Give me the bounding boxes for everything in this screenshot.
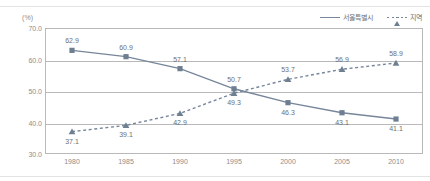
data-point-label: 56.9 — [335, 56, 349, 63]
legend-label-seoul: 서울특별시 — [343, 14, 373, 21]
x-axis-tick-label: 1985 — [118, 158, 134, 165]
triangle-marker-icon — [393, 60, 400, 66]
data-point-label: 42.9 — [173, 119, 187, 126]
legend-item-region[interactable]: 지역 — [387, 13, 422, 21]
x-axis-tick-label: 2005 — [334, 158, 350, 165]
data-point-label: 46.3 — [281, 109, 295, 116]
triangle-marker-icon — [394, 14, 400, 21]
x-axis-tick-label: 1990 — [172, 158, 188, 165]
page-rule-bottom — [0, 176, 430, 177]
legend-label-region: 지역 — [410, 14, 422, 21]
page-rule-top — [0, 6, 430, 7]
x-axis: 1980198519901995200020052010 — [45, 158, 423, 172]
triangle-marker-icon — [177, 110, 184, 116]
data-point-label: 53.7 — [281, 66, 295, 73]
square-marker-icon — [393, 116, 398, 121]
data-point-label: 39.1 — [119, 131, 133, 138]
x-axis-tick-label: 1980 — [64, 158, 80, 165]
chart-figure: (%) 서울특별시 지역 70.060.050.040.030.0 198019… — [0, 0, 430, 181]
x-axis-tick-label: 2000 — [280, 158, 296, 165]
series-layer — [45, 28, 423, 154]
square-marker-icon — [123, 54, 128, 59]
data-point-label: 43.1 — [335, 119, 349, 126]
legend-line-solid — [320, 17, 340, 18]
y-axis-tick-label: 60.0 — [2, 56, 42, 63]
y-axis-tick-label: 50.0 — [2, 88, 42, 95]
data-point-label: 62.9 — [65, 37, 79, 44]
data-point-label: 58.9 — [389, 50, 403, 57]
x-axis-tick-label: 1995 — [226, 158, 242, 165]
data-point-label: 50.7 — [227, 76, 241, 83]
y-axis-unit-label: (%) — [22, 14, 33, 21]
legend-item-seoul[interactable]: 서울특별시 — [320, 13, 373, 21]
square-marker-icon — [339, 110, 344, 115]
y-axis-tick-label: 40.0 — [2, 119, 42, 126]
y-axis: 70.060.050.040.030.0 — [0, 28, 42, 154]
data-point-label: 37.1 — [65, 138, 79, 145]
x-axis-tick-label: 2010 — [388, 158, 404, 165]
data-point-label: 49.3 — [227, 99, 241, 106]
legend-swatch-dashed — [387, 13, 407, 21]
y-axis-tick-label: 30.0 — [2, 151, 42, 158]
data-point-label: 41.1 — [389, 125, 403, 132]
square-marker-icon — [69, 48, 74, 53]
data-point-label: 57.1 — [173, 56, 187, 63]
y-axis-tick-label: 70.0 — [2, 25, 42, 32]
legend-swatch-solid — [320, 13, 340, 21]
chart-legend: 서울특별시 지역 — [320, 13, 422, 21]
square-marker-icon — [177, 66, 182, 71]
square-marker-icon — [285, 100, 290, 105]
data-point-label: 60.9 — [119, 44, 133, 51]
